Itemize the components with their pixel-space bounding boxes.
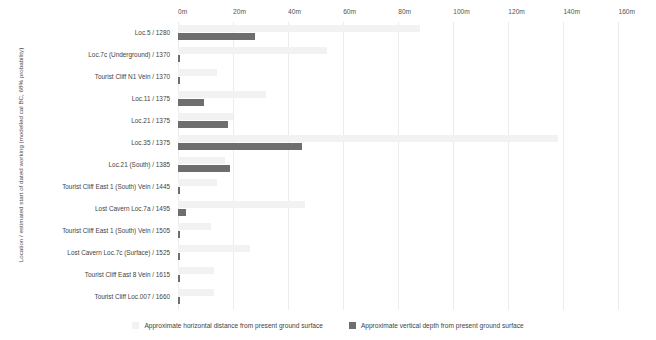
bar-vertical-depth (178, 297, 180, 305)
legend-swatch-horizontal-distance (132, 322, 139, 329)
category-label: Loc.11 / 1375 (132, 88, 170, 110)
bar-row (178, 286, 646, 308)
legend-label: Approximate vertical depth from present … (361, 322, 524, 329)
bar-horizontal-distance (178, 179, 217, 186)
category-label: Lost Cavern Loc.7a / 1495 (95, 198, 170, 220)
bar-horizontal-distance (178, 69, 217, 76)
bar-vertical-depth (178, 143, 302, 151)
bar-horizontal-distance (178, 113, 233, 120)
x-axis-tick-label: 40m (288, 8, 301, 15)
bar-row (178, 264, 646, 286)
bar-horizontal-distance (178, 91, 266, 98)
bar-vertical-depth (178, 33, 255, 41)
bar-vertical-depth (178, 165, 230, 173)
bar-chart: Location / estimated start of dated work… (0, 0, 656, 340)
category-label: Tourist Cliff East 1 (South) Vein / 1505 (62, 220, 170, 242)
legend-swatch-vertical-depth (349, 322, 356, 329)
bar-row (178, 220, 646, 242)
category-label: Loc.35 / 1375 (131, 132, 170, 154)
bar-row (178, 176, 646, 198)
bar-horizontal-distance (178, 157, 225, 164)
legend-item[interactable]: Approximate vertical depth from present … (349, 322, 524, 329)
category-label: Loc.7c (Underground) / 1370 (88, 44, 170, 66)
bar-vertical-depth (178, 275, 180, 283)
x-axis-tick-label: 120m (508, 8, 525, 15)
y-axis-title: Location / estimated start of dated work… (14, 0, 28, 310)
legend-label: Approximate horizontal distance from pre… (144, 322, 323, 329)
category-label: Tourist Cliff N1 Vein / 1370 (95, 66, 170, 88)
bar-horizontal-distance (178, 223, 211, 230)
bar-row (178, 66, 646, 88)
bar-row (178, 88, 646, 110)
chart-legend: Approximate horizontal distance from pre… (0, 316, 656, 334)
category-label: Tourist Cliff Loc.007 / 1660 (94, 286, 170, 308)
bar-horizontal-distance (178, 245, 250, 252)
bar-row (178, 22, 646, 44)
bar-vertical-depth (178, 77, 180, 85)
bar-row (178, 242, 646, 264)
x-axis-tick-label: 20m (233, 8, 246, 15)
bar-horizontal-distance (178, 47, 327, 54)
bar-vertical-depth (178, 253, 180, 261)
bar-vertical-depth (178, 209, 186, 217)
bar-vertical-depth (178, 121, 228, 129)
bar-horizontal-distance (178, 267, 214, 274)
x-axis-tick-label: 80m (398, 8, 411, 15)
category-label: Loc.5 / 1280 (135, 22, 170, 44)
bar-row (178, 132, 646, 154)
bar-vertical-depth (178, 55, 180, 63)
category-label: Lost Cavern Loc.7c (Surface) / 1525 (67, 242, 170, 264)
bar-row (178, 154, 646, 176)
bar-row (178, 198, 646, 220)
x-axis-tick-label: 0m (178, 8, 187, 15)
x-axis-tick-label: 140m (563, 8, 580, 15)
bar-horizontal-distance (178, 25, 420, 32)
x-axis-tick-label: 160m (618, 8, 635, 15)
category-label: Loc.21 / 1375 (131, 110, 170, 132)
category-axis-labels: Loc.5 / 1280Loc.7c (Underground) / 1370T… (36, 22, 176, 310)
bar-vertical-depth (178, 187, 180, 195)
x-axis-tick-label: 60m (343, 8, 356, 15)
bar-vertical-depth (178, 231, 180, 239)
bar-row (178, 110, 646, 132)
category-label: Loc.21 (South) / 1385 (109, 154, 170, 176)
bar-row (178, 44, 646, 66)
category-label: Tourist Cliff East 8 Vein / 1615 (85, 264, 170, 286)
plot-area: 0m20m40m60m80m100m120m140m160m (178, 22, 646, 310)
bar-horizontal-distance (178, 289, 214, 296)
legend-item[interactable]: Approximate horizontal distance from pre… (132, 322, 323, 329)
x-axis-tick-label: 100m (453, 8, 470, 15)
bar-horizontal-distance (178, 201, 305, 208)
bar-horizontal-distance (178, 135, 558, 142)
category-label: Tourist Cliff East 1 (South) Vein / 1445 (62, 176, 170, 198)
bar-vertical-depth (178, 99, 204, 107)
